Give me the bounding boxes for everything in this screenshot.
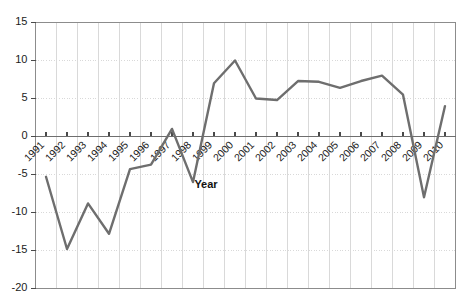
y-axis-tick-label: -20	[12, 281, 28, 293]
x-axis-title-label: Year	[194, 178, 218, 190]
y-axis-tick-label: -5	[18, 167, 28, 179]
line-chart: 151050-5-10-15-20 1991199219931994199519…	[0, 0, 474, 300]
y-axis-tick-label: 15	[15, 15, 27, 27]
chart-container: 151050-5-10-15-20 1991199219931994199519…	[0, 0, 474, 300]
y-axis-tick-label: -15	[12, 243, 28, 255]
y-axis-tick-label: 5	[21, 91, 27, 103]
y-axis-tick-label: -10	[12, 205, 28, 217]
y-axis-tick-label: 10	[15, 53, 27, 65]
x-axis-title: Year	[194, 178, 218, 190]
y-axis-tick-label: 0	[21, 129, 27, 141]
